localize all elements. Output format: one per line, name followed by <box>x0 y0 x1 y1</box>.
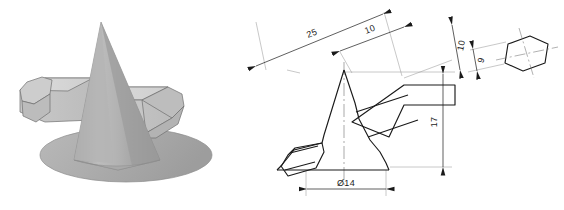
dim-label-17: 17 <box>429 117 439 128</box>
dim-label-d14: Ø14 <box>337 178 355 188</box>
prism-arm-left <box>20 77 93 122</box>
technical-drawing-figure: 25 10 17 Ø14 9 <box>0 0 564 210</box>
